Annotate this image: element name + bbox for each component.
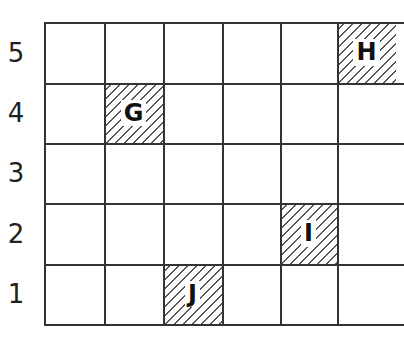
- cell-letter: I: [301, 220, 316, 246]
- cell-letter: J: [185, 281, 200, 307]
- grid-hline: [44, 83, 404, 85]
- grid-hline: [44, 203, 404, 205]
- grid-vline: [337, 22, 339, 326]
- grid-hline: [44, 264, 404, 266]
- row-label-4: 4: [0, 100, 32, 126]
- shaded-cell-g: G: [104, 83, 163, 143]
- row-label-2: 2: [0, 221, 32, 247]
- grid-hline: [44, 143, 404, 145]
- grid-vline: [222, 22, 224, 326]
- shaded-cell-h: H: [337, 22, 396, 83]
- grid-vline: [280, 22, 282, 326]
- grid-hline: [44, 22, 404, 24]
- grid-vline: [104, 22, 106, 326]
- grid-vline: [44, 22, 46, 326]
- shaded-cell-j: J: [163, 264, 222, 324]
- row-label-3: 3: [0, 160, 32, 186]
- cell-letter: H: [353, 39, 379, 65]
- cell-letter: G: [121, 100, 147, 126]
- grid-hline: [44, 324, 404, 326]
- row-label-5: 5: [0, 40, 32, 66]
- row-label-1: 1: [0, 281, 32, 307]
- shaded-cell-i: I: [280, 203, 337, 264]
- grid-vline: [163, 22, 165, 326]
